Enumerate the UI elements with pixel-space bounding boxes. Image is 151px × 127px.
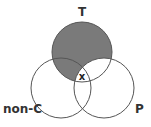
label-p: P — [135, 102, 144, 116]
marker-x: x — [79, 71, 86, 82]
venn-diagram: T non-C P x — [0, 0, 151, 127]
label-t: T — [78, 5, 87, 19]
label-non-c: non-C — [3, 102, 42, 116]
